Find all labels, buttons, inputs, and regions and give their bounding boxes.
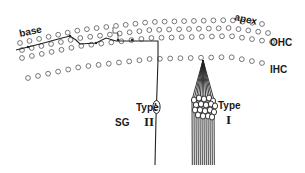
hair-cell bbox=[206, 26, 211, 31]
hair-cell bbox=[260, 61, 265, 66]
hair-cell bbox=[201, 18, 206, 23]
ohc-row-3 bbox=[20, 34, 275, 61]
hair-cell bbox=[169, 35, 174, 40]
hair-cell bbox=[260, 22, 265, 27]
hair-cell bbox=[143, 20, 148, 25]
hair-cell bbox=[37, 37, 42, 42]
type-i-ganglion-cell bbox=[212, 103, 217, 109]
hair-cell bbox=[221, 18, 226, 23]
ihc-row bbox=[26, 55, 265, 81]
hair-cell bbox=[199, 34, 204, 39]
type-i-ganglion-cell bbox=[200, 113, 205, 119]
cochlea-innervation-diagram: base apex OHC IHC SG Type II Type I bbox=[0, 0, 305, 173]
hair-cell bbox=[49, 42, 54, 47]
hair-cell bbox=[159, 35, 164, 40]
hair-cell bbox=[75, 28, 80, 33]
type-i-ganglion-cell bbox=[196, 95, 201, 101]
apex-label: apex bbox=[234, 11, 259, 27]
hair-cell bbox=[189, 35, 194, 40]
sg-label: SG bbox=[115, 117, 130, 128]
hair-cell bbox=[59, 47, 64, 52]
hair-cell bbox=[109, 40, 114, 45]
hair-cell bbox=[210, 34, 215, 39]
hair-cell bbox=[187, 27, 192, 32]
hair-cell bbox=[65, 30, 70, 35]
ihc-label: IHC bbox=[270, 64, 287, 75]
hair-cell bbox=[46, 34, 51, 39]
hair-cell bbox=[69, 45, 74, 50]
hair-cell bbox=[108, 32, 113, 37]
hair-cell bbox=[153, 20, 158, 25]
hair-cell bbox=[177, 27, 182, 32]
hair-cell bbox=[36, 74, 41, 79]
hair-cell bbox=[162, 19, 167, 24]
type-i-roman-label: I bbox=[226, 112, 231, 127]
hair-cell bbox=[18, 41, 23, 46]
hair-cell bbox=[229, 55, 234, 60]
type-i-ganglion-cell bbox=[203, 102, 208, 108]
hair-cell bbox=[98, 33, 103, 38]
hair-cell bbox=[266, 31, 271, 36]
type-ii-fiber bbox=[16, 27, 158, 165]
hair-cell bbox=[78, 36, 83, 41]
type-ii-word-label: Type bbox=[136, 102, 159, 113]
hair-cell bbox=[216, 26, 221, 31]
hair-cell bbox=[250, 59, 255, 64]
hair-cell bbox=[260, 38, 265, 43]
type-i-ganglion-cell bbox=[209, 114, 214, 120]
hair-cell bbox=[240, 35, 245, 40]
hair-cell bbox=[46, 71, 51, 76]
hair-cell bbox=[39, 52, 44, 57]
ohc-label: OHC bbox=[270, 37, 292, 48]
hair-cell bbox=[256, 29, 261, 34]
hair-cell bbox=[230, 34, 235, 39]
hair-cell bbox=[86, 64, 91, 69]
hair-cell bbox=[157, 27, 162, 32]
hair-cell bbox=[133, 21, 138, 26]
hair-cell bbox=[99, 41, 104, 46]
hair-cell bbox=[219, 55, 224, 60]
hair-cell bbox=[26, 76, 31, 81]
hair-cell bbox=[94, 26, 99, 31]
hair-cell bbox=[20, 56, 25, 61]
hair-cell bbox=[76, 65, 81, 70]
type-i-word-label: Type bbox=[218, 100, 241, 111]
hair-cell bbox=[117, 60, 122, 65]
hair-cell bbox=[168, 56, 173, 61]
hair-cell bbox=[211, 18, 216, 23]
hair-cell bbox=[137, 58, 142, 63]
hair-cell bbox=[127, 30, 132, 35]
hair-cell bbox=[236, 27, 241, 32]
hair-cell bbox=[179, 35, 184, 40]
hair-cell bbox=[88, 34, 93, 39]
hair-cell bbox=[239, 57, 244, 62]
hair-cell bbox=[192, 19, 197, 24]
hair-cell bbox=[114, 24, 119, 29]
hair-cell bbox=[56, 32, 61, 37]
hair-cell bbox=[167, 27, 172, 32]
hair-cell bbox=[49, 50, 54, 55]
hair-cell bbox=[209, 55, 214, 60]
type-i-ganglion-cluster bbox=[191, 95, 217, 120]
hair-cell bbox=[197, 26, 202, 31]
hair-cell bbox=[66, 67, 71, 72]
hair-cell bbox=[56, 69, 61, 74]
hair-cell bbox=[85, 27, 90, 32]
hair-cell bbox=[220, 34, 225, 39]
hair-cell bbox=[27, 39, 32, 44]
hair-cell bbox=[96, 63, 101, 68]
hair-cell bbox=[147, 28, 152, 33]
hair-cell bbox=[188, 56, 193, 61]
type-i-ganglion-cell bbox=[198, 101, 203, 107]
hair-cell-rows bbox=[18, 18, 275, 81]
hair-cell bbox=[172, 19, 177, 24]
hair-cell bbox=[149, 36, 154, 41]
hair-cell bbox=[30, 54, 35, 59]
hair-cell bbox=[178, 56, 183, 61]
hair-cell bbox=[104, 25, 109, 30]
hair-cell bbox=[147, 57, 152, 62]
hair-cell bbox=[182, 19, 187, 24]
hair-cell bbox=[250, 37, 255, 42]
hair-cell bbox=[106, 61, 111, 66]
type-ii-roman-label: II bbox=[144, 114, 154, 129]
